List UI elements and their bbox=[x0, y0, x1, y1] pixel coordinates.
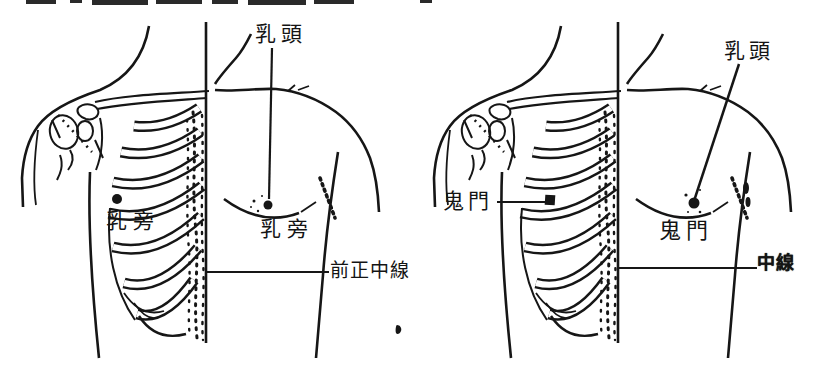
comma-artifact bbox=[396, 325, 402, 334]
top-crop-marks bbox=[26, 0, 432, 5]
nipple-leader-line bbox=[269, 48, 272, 199]
point-square-skeleton bbox=[545, 195, 556, 206]
anatomy-illustration bbox=[0, 0, 822, 391]
torso-drawing-left bbox=[22, 22, 379, 358]
point-dot-skeleton bbox=[112, 194, 122, 204]
point-dot-surface bbox=[264, 201, 273, 210]
label-anterior-midline: 前正中線 bbox=[330, 261, 410, 280]
label-point-skeleton-left: 乳旁 bbox=[106, 211, 160, 232]
label-point-skeleton-right: 鬼門 bbox=[443, 191, 493, 212]
label-nipple-left-figure: 乳頭 bbox=[255, 24, 307, 45]
label-point-surface-right: 鬼門 bbox=[659, 220, 713, 242]
left-figure-annotations bbox=[112, 48, 401, 334]
point-dot-surface bbox=[689, 198, 700, 209]
scanned-diagram-page: 乳頭 乳旁 乳旁 前正中線 鬼門 乳頭 鬼門 中線 bbox=[0, 0, 822, 391]
label-nipple-right-figure: 乳頭 bbox=[724, 41, 774, 62]
label-point-surface-left: 乳旁 bbox=[260, 219, 314, 240]
label-midline-right: 中線 bbox=[757, 254, 795, 272]
